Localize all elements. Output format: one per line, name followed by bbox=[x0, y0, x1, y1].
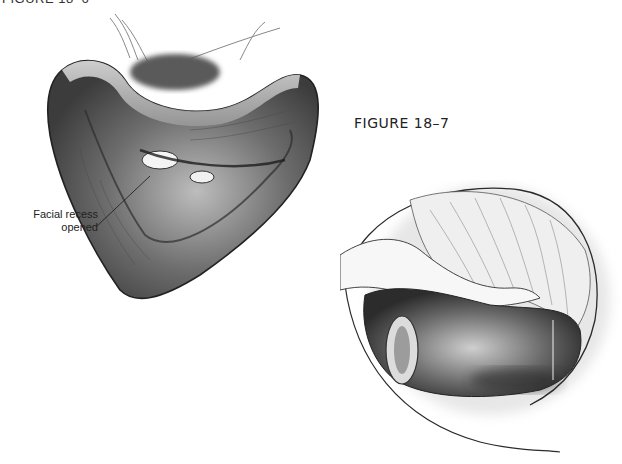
mastoid-cavity-illustration bbox=[40, 0, 330, 310]
callout-line-2: opened bbox=[14, 221, 98, 234]
callout-line-1: Facial recess bbox=[14, 208, 98, 221]
figure-caption: FIGURE 18–7 bbox=[354, 115, 450, 131]
middle-ear-illustration bbox=[340, 180, 622, 464]
facial-recess-label: Facial recess opened bbox=[14, 208, 98, 234]
